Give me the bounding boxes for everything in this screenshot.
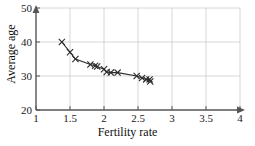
x-tick-label: 4 [229, 113, 251, 124]
gridlines [36, 8, 240, 110]
data-point-marker [72, 56, 78, 62]
y-tick-label: 40 [12, 37, 32, 48]
x-tick-label: 1.5 [59, 113, 81, 124]
x-tick-label: 2.5 [127, 113, 149, 124]
data-point-markers [59, 39, 154, 85]
axis-lines [33, 5, 245, 113]
x-tick-label: 3 [161, 113, 183, 124]
scatter-chart: Fertility rate Average age 11.522.533.54… [0, 0, 255, 146]
y-tick-label: 50 [12, 3, 32, 14]
y-tick-label: 30 [12, 71, 32, 82]
x-tick-label: 2 [93, 113, 115, 124]
y-axis-arrow-icon [33, 5, 40, 13]
x-tick-label: 3.5 [195, 113, 217, 124]
x-axis-title: Fertility rate [0, 126, 255, 138]
y-axis-title: Average age [5, 13, 17, 95]
data-point-marker [87, 61, 93, 67]
y-tick-label: 20 [12, 105, 32, 116]
